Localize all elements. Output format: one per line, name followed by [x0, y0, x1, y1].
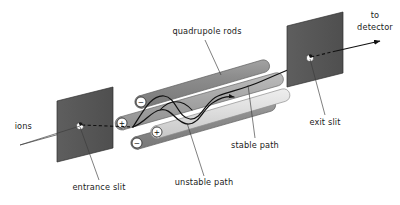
electrode-sign-upper-rear-glyph: − [138, 98, 144, 107]
label-quadrupole-rods: quadrupole rods [172, 26, 241, 36]
electrode-sign-mid-front: + [152, 127, 162, 137]
label-unstable-path: unstable path [175, 177, 234, 187]
label-to-detector-line2: detector [357, 22, 393, 32]
electrode-sign-lower-front: − [132, 138, 142, 148]
exit-slit-plate [287, 12, 343, 87]
quadrupole-mass-analyzer-diagram: − − + + [0, 0, 400, 205]
label-to-detector-line1: to [371, 10, 380, 20]
electrode-sign-upper-rear: − [136, 97, 146, 107]
electrode-sign-lower-front-glyph: − [134, 139, 140, 148]
label-ions: ions [15, 121, 32, 131]
label-entrance-slit: entrance slit [72, 182, 126, 192]
entrance-slit-plate [57, 87, 113, 162]
diagram-canvas: − − + + [0, 0, 400, 205]
label-exit-slit: exit slit [309, 117, 341, 127]
electrode-sign-mid-front-glyph: + [154, 128, 160, 137]
leader-quadrupole-rods [205, 40, 221, 75]
label-stable-path: stable path [231, 140, 279, 150]
